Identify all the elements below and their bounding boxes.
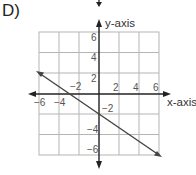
x-tick-6: 6 [153, 82, 159, 93]
y-tick-2: 2 [91, 73, 97, 84]
y-tick-neg2: −2 [102, 103, 114, 114]
x-tick-neg2: −2 [70, 81, 82, 92]
y-tick-neg6: −6 [87, 144, 99, 155]
y-tick-4: 4 [91, 52, 97, 63]
y-axis-title: y-axis [105, 17, 135, 29]
x-tick-neg6: −6 [34, 97, 46, 108]
x-tick-neg4: −4 [54, 97, 66, 108]
x-axis-title: x-axis [167, 96, 196, 108]
y-tick-6: 6 [91, 32, 97, 43]
coordinate-graph: −6 −4 −2 2 4 6 6 4 2 −2 −4 −6 y-axis x-a… [0, 0, 196, 175]
x-tick-2: 2 [113, 82, 119, 93]
y-axis-up-arrow-icon [96, 19, 102, 27]
y-tick-neg4: −4 [87, 124, 99, 135]
x-tick-4: 4 [133, 82, 139, 93]
top-stub-arrow-icon [96, 2, 102, 7]
y-axis-down-arrow-icon [96, 161, 102, 169]
